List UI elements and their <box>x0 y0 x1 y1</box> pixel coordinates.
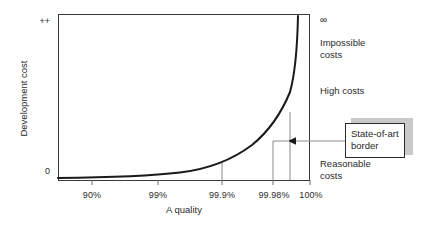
x-axis-line <box>58 180 310 181</box>
region-label-high-costs: High costs <box>320 85 364 97</box>
state-of-art-callout: State-of-art border <box>345 123 405 158</box>
y-axis-tick-zero: 0 <box>32 166 50 176</box>
x-axis-tick-99: 99% <box>149 190 167 200</box>
x-axis-tick-99-9: 99.9% <box>209 190 235 200</box>
region-label-reasonable-costs: Reasonable costs <box>320 158 371 181</box>
x-axis-title: A quality <box>58 204 310 215</box>
x-axis-tick-99-98: 99.98% <box>258 190 289 200</box>
plot-frame <box>58 14 310 180</box>
infinity-icon: ∞ <box>320 15 327 25</box>
chart-figure: ++ 0 Development cost 90% 99% 99.9% 99.9… <box>0 0 430 230</box>
y-axis-title: Development cost <box>18 39 29 159</box>
x-axis-tick-100: 100% <box>299 190 322 200</box>
region-label-impossible-costs: Impossible costs <box>320 37 365 60</box>
y-axis-tick-top: ++ <box>32 16 50 26</box>
x-axis-tick-90: 90% <box>83 190 101 200</box>
